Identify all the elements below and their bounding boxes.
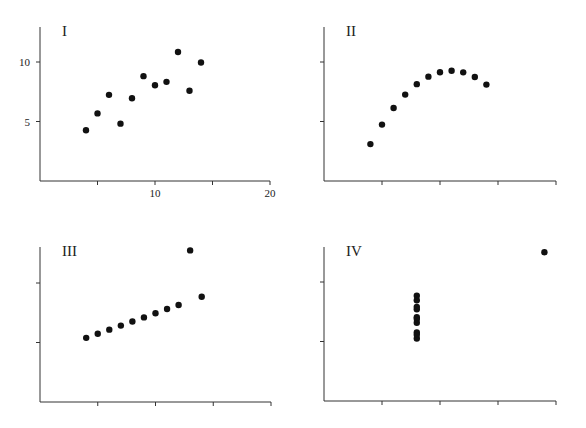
data-point <box>483 81 489 87</box>
data-point <box>94 110 100 116</box>
data-point <box>152 310 158 316</box>
data-point <box>186 88 192 94</box>
data-point <box>460 69 466 75</box>
data-point <box>175 302 181 308</box>
data-point <box>129 95 135 101</box>
panel-title: IV <box>346 243 362 259</box>
data-point <box>414 81 420 87</box>
data-point <box>198 59 204 65</box>
data-point <box>199 294 205 300</box>
y-tick-label: 10 <box>19 56 31 68</box>
data-point <box>414 304 420 310</box>
panel-iii: III <box>0 214 293 428</box>
data-point <box>83 335 89 341</box>
scatter-plot-iv: IV <box>293 214 586 428</box>
data-point <box>187 247 193 253</box>
data-point <box>106 92 112 98</box>
data-point <box>472 74 478 80</box>
data-point <box>129 318 135 324</box>
scatter-plot-i: 1020510I <box>0 0 293 214</box>
data-point <box>83 127 89 133</box>
data-point <box>414 316 420 322</box>
x-tick-label: 10 <box>150 187 162 199</box>
data-point <box>414 332 420 338</box>
data-point <box>541 249 547 255</box>
data-point <box>118 322 124 328</box>
data-point <box>117 120 123 126</box>
data-point <box>414 297 420 303</box>
data-point <box>390 105 396 111</box>
scatter-plot-ii: II <box>293 0 586 214</box>
data-point <box>402 91 408 97</box>
data-point <box>175 49 181 55</box>
panel-title: I <box>62 23 67 39</box>
data-point <box>379 121 385 127</box>
data-point <box>163 79 169 85</box>
x-tick-label: 20 <box>265 187 277 199</box>
y-tick-label: 5 <box>25 116 31 128</box>
panel-title: III <box>62 243 77 259</box>
panel-title: II <box>346 23 356 39</box>
data-point <box>141 314 147 320</box>
panel-i: 1020510I <box>0 0 293 214</box>
panel-iv: IV <box>293 214 586 428</box>
data-point <box>140 73 146 79</box>
data-point <box>425 73 431 79</box>
panel-ii: II <box>293 0 586 214</box>
scatter-plot-iii: III <box>0 214 293 428</box>
data-point <box>448 68 454 74</box>
data-point <box>164 306 170 312</box>
data-point <box>152 82 158 88</box>
data-point <box>106 326 112 332</box>
data-point <box>367 141 373 147</box>
data-point <box>437 69 443 75</box>
data-point <box>95 331 101 337</box>
